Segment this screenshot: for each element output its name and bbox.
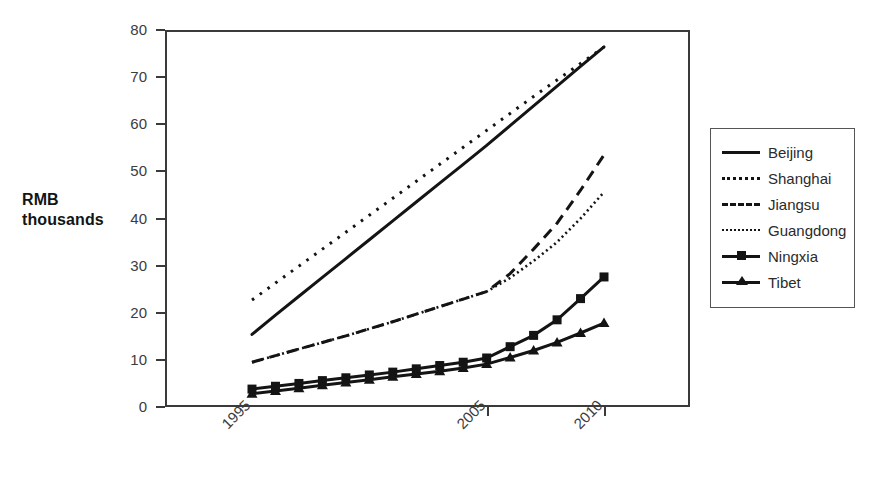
legend-item-label: Ningxia <box>768 248 818 265</box>
y-tick-mark <box>156 170 165 172</box>
y-tick-label: 70 <box>113 68 147 85</box>
legend-item-jiangsu[interactable]: Jiangsu <box>721 191 854 217</box>
legend-item-guangdong[interactable]: Guangdong <box>721 217 854 243</box>
y-tick-label: 20 <box>113 304 147 321</box>
y-tick-label: 40 <box>113 210 147 227</box>
y-tick-mark <box>156 76 165 78</box>
plot-area <box>165 30 690 407</box>
legend-item-label: Shanghai <box>768 170 831 187</box>
legend-item-shanghai[interactable]: Shanghai <box>721 165 854 191</box>
y-tick-mark <box>156 123 165 125</box>
legend: BeijingShanghaiJiangsuGuangdongNingxiaTi… <box>710 128 855 308</box>
legend-item-tibet[interactable]: Tibet <box>721 269 854 295</box>
y-tick-label: 30 <box>113 257 147 274</box>
legend-triangle-marker-icon <box>736 276 748 285</box>
legend-item-label: Beijing <box>768 144 813 161</box>
chart-figure: RMB thousands 01020304050607080 19952005… <box>0 0 873 480</box>
y-tick-label: 0 <box>113 398 147 415</box>
legend-key-icon <box>721 197 761 211</box>
y-tick-mark <box>156 29 165 31</box>
legend-item-label: Jiangsu <box>768 196 820 213</box>
legend-square-marker-icon <box>737 251 746 260</box>
y-tick-label: 10 <box>113 351 147 368</box>
legend-item-beijing[interactable]: Beijing <box>721 139 854 165</box>
legend-key-icon <box>721 249 761 263</box>
y-tick-mark <box>156 218 165 220</box>
y-tick-label: 80 <box>113 21 147 38</box>
y-tick-mark <box>156 406 165 408</box>
legend-item-label: Guangdong <box>768 222 846 239</box>
y-tick-mark <box>156 359 165 361</box>
legend-item-ningxia[interactable]: Ningxia <box>721 243 854 269</box>
legend-item-label: Tibet <box>768 274 801 291</box>
legend-key-icon <box>721 275 761 289</box>
y-tick-label: 50 <box>113 162 147 179</box>
y-tick-mark <box>156 265 165 267</box>
legend-key-icon <box>721 223 761 237</box>
y-axis-title-line1: RMB <box>22 190 142 210</box>
y-tick-mark <box>156 312 165 314</box>
legend-key-icon <box>721 171 761 185</box>
legend-key-icon <box>721 145 761 159</box>
y-tick-label: 60 <box>113 115 147 132</box>
